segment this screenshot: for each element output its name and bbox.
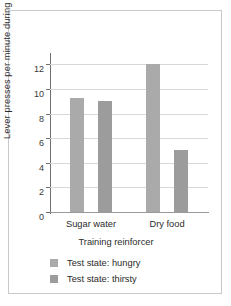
gridline — [50, 64, 208, 65]
legend-item: Test state: hungry — [50, 256, 140, 270]
y-tick-mark — [46, 163, 50, 164]
legend-label: Test state: hungry — [67, 258, 140, 268]
legend-swatch — [50, 259, 58, 267]
bar — [70, 98, 84, 212]
bar — [174, 150, 188, 212]
y-tick-mark — [46, 64, 50, 65]
y-tick-mark — [46, 89, 50, 90]
y-axis-line — [50, 53, 51, 214]
chart-legend: Test state: hungryTest state: thirsty — [50, 256, 140, 288]
bar — [98, 101, 112, 212]
y-axis-title: Lever presses per minute during extincti… — [2, 0, 12, 139]
bar — [146, 64, 160, 212]
x-tick-label: Sugar water — [66, 219, 116, 229]
legend-label: Test state: thirsty — [67, 274, 137, 284]
legend-swatch — [50, 275, 58, 283]
y-tick-mark — [46, 138, 50, 139]
gridline — [50, 89, 208, 90]
x-axis-line — [50, 212, 209, 213]
y-tick-mark — [46, 187, 50, 188]
y-tick-mark — [46, 212, 50, 213]
y-tick-mark — [46, 114, 50, 115]
plot-area: 024681012 — [50, 53, 208, 213]
x-axis-title: Training reinforcer — [9, 237, 223, 247]
chart-figure: Lever presses per minute during extincti… — [8, 10, 222, 294]
legend-item: Test state: thirsty — [50, 272, 140, 286]
x-tick-label: Dry food — [149, 219, 184, 229]
